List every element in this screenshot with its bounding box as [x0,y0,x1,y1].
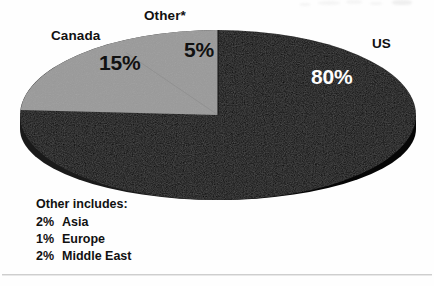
footnote-heading: Other includes: [36,196,131,213]
slice-value-other: 5% [184,38,214,62]
footnote-item-name: Middle East [62,248,131,265]
footnote-item: 2% Asia [36,214,131,231]
slice-value-canada: 15% [99,51,140,75]
bottom-divider-shadow [2,275,432,276]
footnote-item: 1% Europe [36,231,131,248]
slice-value-us: 80% [311,65,352,89]
slice-label-other: Other* [144,8,186,23]
footnote-item-value: 2% [36,248,62,265]
pie-chart-figure: Canada Other* US 15% 5% 80% Other includ… [0,0,434,286]
slice-label-us: US [372,36,391,51]
footnote-item-value: 2% [36,214,62,231]
footnote-item: 2% Middle East [36,248,131,265]
footnote-block: Other includes: 2% Asia 1% Europe 2% Mid… [36,196,131,265]
footnote-item-name: Asia [62,214,88,231]
footnote-item-name: Europe [62,231,105,248]
footnote-item-value: 1% [36,231,62,248]
slice-label-canada: Canada [51,28,100,43]
